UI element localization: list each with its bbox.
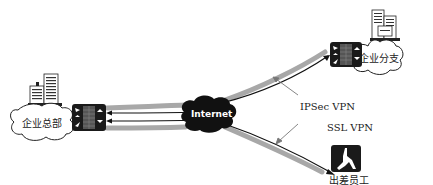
network-diagram <box>0 0 433 185</box>
branch-firewall-icon <box>330 42 362 67</box>
hq-site <box>11 74 74 140</box>
traveler-label: 出差员工 <box>329 172 369 185</box>
branch-label: 企业分支 <box>359 50 399 65</box>
hq-firewall-icon <box>72 104 106 131</box>
walking-person-icon <box>331 145 361 172</box>
office-building-icon <box>370 10 400 41</box>
internet-label: Internet <box>191 109 232 119</box>
ssl-vpn-label: SSL VPN <box>327 122 373 133</box>
label-pointer-arrows <box>273 77 298 144</box>
hq-label: 企业总部 <box>22 115 62 130</box>
office-building-icon <box>28 74 62 106</box>
ipsec-vpn-label: IPSec VPN <box>300 101 355 112</box>
